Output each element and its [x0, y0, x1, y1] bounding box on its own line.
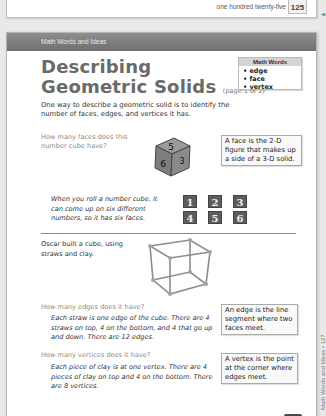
face-tile-2: 2 — [208, 195, 222, 208]
previous-page-footer-text: one hundred twenty-five — [217, 3, 286, 10]
edges-question: How many edges does it have? — [41, 303, 181, 312]
vertices-question: How many vertices does it have? — [41, 351, 181, 360]
vocab-item-face: • face — [243, 75, 301, 83]
edge-definition-text: An edge is the line segment where two fa… — [225, 306, 292, 332]
number-cube-icon: 5 6 3 — [147, 134, 193, 180]
die-top-number: 5 — [168, 142, 174, 152]
section-divider — [41, 233, 296, 234]
vertex-definition-box: A vertex is the point at the corner wher… — [221, 353, 298, 384]
edges-answer: Each straw is one edge of the cube. Ther… — [51, 314, 217, 343]
face-tile-5: 5 — [208, 211, 222, 224]
title-line-2: Geometric Solids (page 1 of 2) — [41, 77, 265, 101]
cube-description: Oscar built a cube, using straws and cla… — [41, 240, 131, 259]
math-words-heading: Math Words — [239, 58, 301, 66]
previous-page-number: 125 — [288, 0, 307, 14]
textbook-page: Math Words and Ideas Describing Geometri… — [6, 32, 317, 416]
vocab-item-edge: • edge — [243, 67, 301, 75]
die-side-number: 3 — [179, 157, 184, 166]
number-cube-faces: 1 2 3 4 5 6 — [183, 195, 247, 224]
previous-page-fragment: one hundred twenty-five 125 — [6, 0, 317, 18]
face-definition-box: A face is the 2-D figure that makes up a… — [221, 135, 302, 166]
face-tile-1: 1 — [183, 195, 197, 208]
die-front-number: 6 — [160, 159, 166, 169]
faces-question: How many faces does this number cube hav… — [41, 133, 136, 151]
intro-paragraph: One way to describe a geometric solid is… — [41, 101, 231, 119]
section-label: Math Words and Ideas — [41, 38, 106, 45]
math-words-box: Math Words • edge • face • vertex — [238, 57, 302, 90]
left-arrow-icon: ◄ — [320, 10, 325, 17]
face-tile-6: 6 — [233, 211, 247, 224]
section-header-bar: Math Words and Ideas — [7, 33, 316, 51]
straw-cube-icon — [146, 238, 216, 300]
vertex-definition-text: A vertex is the point at the corner wher… — [225, 355, 294, 381]
side-margin-text: Math Words and Ideas • 127 — [320, 290, 326, 410]
vertices-answer: Each piece of clay is at one vertex. The… — [51, 363, 217, 392]
page-title: Describing Geometric Solids (page 1 of 2… — [41, 57, 265, 101]
math-words-list: • edge • face • vertex — [239, 66, 301, 91]
vocab-item-vertex: • vertex — [243, 83, 301, 91]
face-tile-3: 3 — [233, 195, 247, 208]
faces-answer: When you roll a number cube, it can come… — [51, 195, 169, 224]
title-line-1: Describing — [41, 57, 265, 77]
edge-definition-box: An edge is the line segment where two fa… — [221, 304, 298, 335]
face-tile-4: 4 — [183, 211, 197, 224]
title-line-2-text: Geometric Solids — [41, 76, 216, 97]
face-definition-text: A face is the 2-D figure that makes up a… — [225, 137, 296, 163]
